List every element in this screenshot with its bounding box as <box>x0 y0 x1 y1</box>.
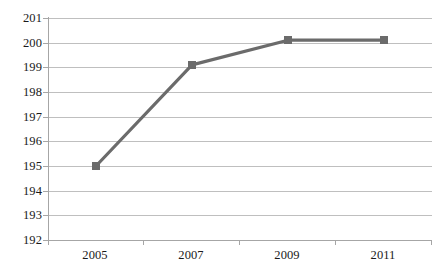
data-point-marker <box>380 36 388 44</box>
data-point-marker <box>92 162 100 170</box>
series-line <box>0 0 444 277</box>
data-point-marker <box>284 36 292 44</box>
data-point-marker <box>188 61 196 69</box>
line-chart: 201 200 199 198 197 196 195 194 193 192 … <box>0 0 444 277</box>
